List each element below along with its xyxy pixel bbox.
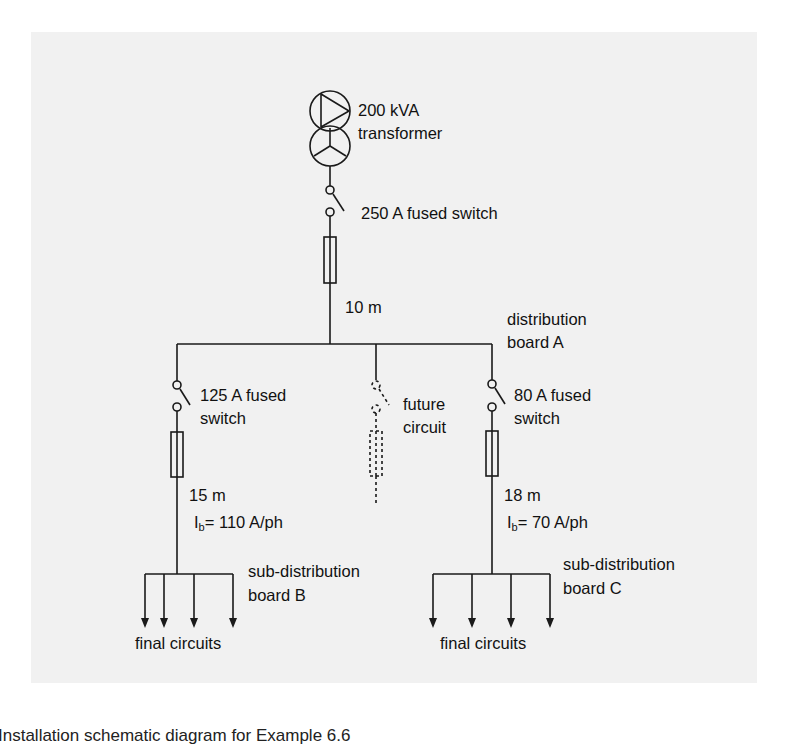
transformer-type-label: transformer — [358, 122, 442, 144]
future-circuit — [370, 344, 389, 506]
switch-b-label-line2: switch — [200, 407, 246, 429]
final-circuits-b-label: final circuits — [135, 632, 221, 654]
future-circuit-label-line1: future — [403, 393, 445, 415]
final-circuit-arrows-c — [429, 618, 554, 628]
future-circuit-label-line2: circuit — [403, 416, 446, 438]
board-c-label-line1: sub-distribution — [563, 553, 675, 575]
board-b-label-line1: sub-distribution — [248, 560, 360, 582]
switch-c-label-line2: switch — [514, 407, 560, 429]
final-circuit-arrows-b — [141, 618, 237, 628]
main-fused-switch-icon — [326, 186, 344, 216]
figure-caption: Installation schematic diagram for Examp… — [0, 726, 350, 745]
board-a-label-line2: board A — [507, 331, 564, 353]
cable-b-current-label: Ib= 110 A/ph — [194, 511, 283, 538]
final-circuits-c-label: final circuits — [440, 632, 526, 654]
main-cable-length-label: 10 m — [345, 296, 382, 318]
transformer-rating-label: 200 kVA — [358, 99, 419, 121]
cable-c-length-label: 18 m — [504, 484, 541, 506]
switch-c-label-line1: 80 A fused — [514, 384, 591, 406]
board-b-label-line2: board B — [248, 584, 306, 606]
cable-b-length-label: 15 m — [189, 484, 226, 506]
main-switch-label: 250 A fused switch — [361, 202, 498, 224]
board-c-label-line2: board C — [563, 577, 622, 599]
board-a-label-line1: distribution — [507, 308, 587, 330]
transformer-icon — [310, 91, 350, 166]
switch-b-label-line1: 125 A fused — [200, 384, 286, 406]
cable-c-current-label: Ib= 70 A/ph — [507, 511, 588, 538]
